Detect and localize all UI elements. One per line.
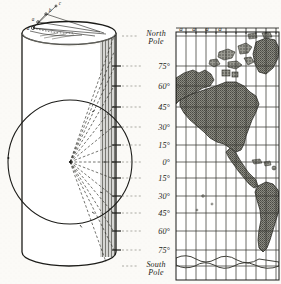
lat-label-equator: 0° [162, 158, 170, 167]
lat-label-s75: 75° [158, 246, 170, 255]
meridian-label-a4: a [218, 25, 222, 33]
lat-label-s60: 60° [158, 227, 170, 236]
apex-label-a1: a [27, 25, 30, 31]
lat-label-n30: 30° [157, 123, 170, 132]
lat-label-s45: 45° [158, 209, 170, 218]
lat-label-s30: 30° [157, 192, 170, 201]
north-pole-label-line2: Pole [147, 37, 164, 46]
lat-label-n60: 60° [158, 82, 170, 91]
apex-label-b: b [49, 7, 52, 13]
lat-label-n75: 75° [158, 62, 170, 71]
apex-label-a2: a [32, 16, 35, 22]
projection-map: a a a a [176, 25, 280, 280]
cylinder-globe-diagram: a a b c [7, 0, 132, 266]
lat-label-s15: 15° [158, 174, 170, 183]
lat-label-n15: 15° [158, 141, 170, 150]
meridian-label-a1: a [179, 25, 183, 33]
lat-label-n45: 45° [158, 103, 170, 112]
cylindrical-projection-figure: a a b c North Pole [0, 0, 281, 284]
south-pole-label-line2: Pole [147, 268, 164, 277]
